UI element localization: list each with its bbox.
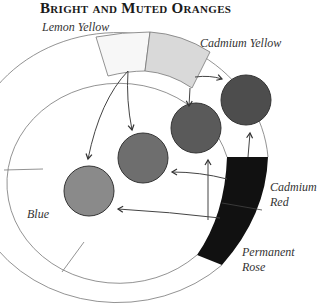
label-permanent-rose: Permanent Rose — [242, 245, 295, 275]
label-cadmium-red-line2: Red — [270, 195, 317, 210]
label-cadmium-yellow: Cadmium Yellow — [200, 36, 281, 51]
label-permanent-rose-line2: Rose — [242, 260, 295, 275]
swatch-3 — [171, 103, 221, 153]
divider-blue-top — [4, 169, 43, 170]
lemon-yellow-segment — [96, 32, 150, 76]
label-cadmium-red-line1: Cadmium — [270, 180, 317, 195]
swatch-4 — [221, 75, 271, 125]
label-lemon-yellow: Lemon Yellow — [42, 20, 109, 35]
label-blue: Blue — [27, 207, 49, 222]
swatch-1 — [64, 166, 114, 216]
label-permanent-rose-line1: Permanent — [242, 245, 295, 260]
label-cadmium-red: Cadmium Red — [270, 180, 317, 210]
divider-blue-bottom — [62, 242, 84, 272]
swatch-2 — [118, 133, 168, 183]
